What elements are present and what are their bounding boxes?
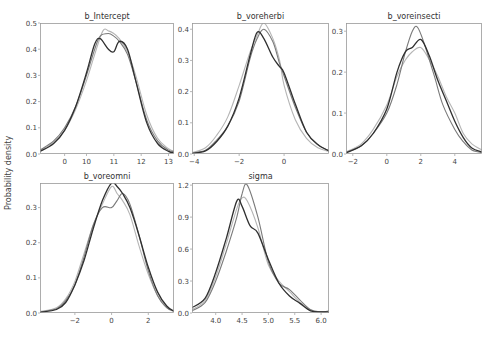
x-tick-label: 12 [137, 158, 146, 166]
x-tick-label: 2 [419, 158, 423, 166]
x-tick-label: −2 [70, 317, 80, 325]
x-tick-label: 0 [282, 158, 286, 166]
density-figure: b_Intercept0.00.10.20.30.40.5010111213b_… [0, 0, 496, 339]
y-tick-label: 0.3 [26, 72, 37, 80]
density-line-chain-1 [192, 199, 329, 312]
axes-frame [193, 184, 329, 313]
x-tick-label: 0 [109, 317, 113, 325]
y-tick-label: 0.2 [332, 69, 343, 77]
density-curves [346, 26, 482, 153]
x-tick-label: 2 [146, 317, 150, 325]
axes-frame [41, 184, 174, 313]
y-tick-label: 0.0 [332, 151, 343, 159]
y-tick-label: 0.4 [26, 46, 38, 54]
y-tick-label: 0.1 [178, 119, 189, 127]
panel-title: sigma [248, 172, 272, 181]
x-tick-label: −2 [348, 158, 358, 166]
y-tick-label: 0.9 [178, 214, 189, 222]
y-axis-label-text: Probability density [4, 136, 13, 210]
y-tick-label: 0.1 [332, 110, 343, 118]
x-tick-label: 5.5 [289, 317, 300, 325]
y-tick-label: 0.3 [178, 278, 189, 286]
y-tick-label: 0.0 [26, 151, 37, 159]
y-tick-label: 0.1 [26, 274, 37, 282]
density-line-chain-3 [192, 197, 329, 312]
density-line-chain-1 [192, 32, 329, 154]
density-line-chain-2 [40, 34, 174, 152]
panel-title: b_voreherbi [237, 12, 284, 21]
y-tick-label: 0.0 [178, 151, 189, 159]
figure-caption-fragment [40, 333, 480, 339]
density-curves [40, 29, 174, 153]
panel-b-voreinsecti: b_voreinsecti0.00.10.20.3−2024 [332, 12, 482, 166]
x-tick-label: 11 [109, 158, 118, 166]
y-tick-label: 0.3 [332, 28, 343, 36]
x-tick-label: 0 [62, 158, 66, 166]
y-tick-label: 1.2 [178, 182, 189, 190]
y-tick-label: 0.2 [178, 88, 189, 96]
panel-title: b_voreinsecti [388, 12, 441, 21]
y-tick-label: 0.6 [178, 246, 190, 254]
x-tick-label: 4.5 [236, 317, 247, 325]
x-tick-label: 4.0 [210, 317, 221, 325]
density-curves [192, 23, 329, 153]
y-axis-label: Probability density [2, 168, 18, 188]
density-line-chain-2 [192, 184, 329, 312]
x-tick-label: −4 [189, 158, 200, 166]
panel-b-voreomni: b_voreomni0.00.10.20.3−202 [26, 172, 174, 325]
density-line-chain-1 [346, 39, 482, 153]
density-line-chain-1 [40, 182, 174, 312]
y-tick-label: 0.5 [26, 20, 37, 28]
panel-b-intercept: b_Intercept0.00.10.20.30.40.5010111213 [26, 12, 174, 166]
density-curves [192, 184, 329, 312]
x-tick-label: 6.0 [316, 317, 327, 325]
panel-b-voreherbi: b_voreherbi0.00.10.20.30.4−4−20 [178, 12, 329, 166]
density-line-chain-2 [40, 193, 174, 311]
density-curves [40, 182, 174, 312]
x-tick-label: 5.0 [263, 317, 274, 325]
x-tick-label: 4 [453, 158, 458, 166]
x-tick-label: 13 [164, 158, 173, 166]
y-tick-label: 0.1 [26, 124, 37, 132]
y-tick-label: 0.2 [26, 239, 37, 247]
density-line-chain-3 [192, 23, 329, 153]
y-tick-label: 0.3 [26, 204, 37, 212]
panel-title: b_Intercept [84, 12, 129, 21]
x-tick-label: 10 [82, 158, 91, 166]
density-line-chain-3 [40, 186, 174, 311]
y-tick-label: 0.2 [26, 98, 37, 106]
y-tick-label: 0.3 [178, 57, 189, 65]
x-tick-label: −2 [234, 158, 244, 166]
y-tick-label: 0.4 [178, 26, 190, 34]
density-line-chain-3 [346, 47, 482, 152]
y-tick-label: 0.0 [26, 310, 37, 318]
panel-sigma: sigma0.00.30.60.91.24.04.55.05.56.0 [178, 172, 329, 325]
x-tick-label: 0 [385, 158, 389, 166]
y-tick-label: 0.0 [178, 310, 189, 318]
panel-title: b_voreomni [84, 172, 131, 181]
